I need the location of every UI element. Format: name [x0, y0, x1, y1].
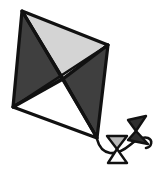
kite-illustration: kite	[0, 0, 164, 175]
kite-svg	[0, 0, 164, 175]
